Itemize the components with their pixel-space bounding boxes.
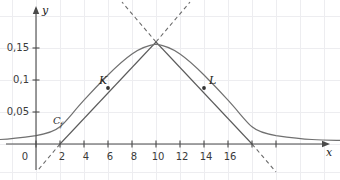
x-tick-label-12: 12 [176,151,189,162]
function-graph-svg: 0 2 4 6 8 10 12 14 16 0,05 0,1 0,15 y x … [0,0,340,180]
x-tick-label-6: 6 [107,151,113,162]
y-tick-label-005: 0,05 [7,106,29,117]
x-tick-label-10: 10 [152,151,165,162]
x-tick-label-14: 14 [200,151,213,162]
grid-lines [0,0,340,180]
point-l-marker [202,86,206,90]
point-k-label: K [98,74,108,87]
tangent-left-dashed-upper [156,2,190,42]
point-l-label: L [208,74,216,87]
y-tick-label-015: 0,15 [7,42,29,53]
x-tick-label-4: 4 [83,151,89,162]
tangent-right-dashed-lower [252,144,276,172]
x-axis-label: x [326,146,333,159]
tangent-right-dashed-upper [122,2,156,42]
curve-cf [0,44,340,140]
axes [6,8,322,170]
y-tick-label-01: 0,1 [13,74,29,85]
chart-canvas: 0 2 4 6 8 10 12 14 16 0,05 0,1 0,15 y x … [0,0,340,180]
tangent-dashed-extensions [38,2,276,172]
x-tick-label-16: 16 [224,151,237,162]
y-axis-arrowhead [33,6,39,14]
curve-label-subscript: f [59,121,64,129]
y-axis-label: y [41,4,49,17]
x-tick-label-2: 2 [59,151,65,162]
x-tick-label-8: 8 [131,151,137,162]
x-tick-label-0: 0 [22,151,28,162]
tangent-left-dashed-lower [38,144,60,170]
